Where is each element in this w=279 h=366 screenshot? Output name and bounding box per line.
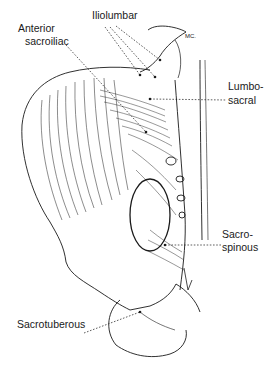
- sacrum-outline: [175, 80, 185, 290]
- label-anterior-sacroiliac-line2: sacroiliac: [25, 35, 69, 47]
- label-lumbosacral-line2: sacral: [228, 94, 256, 106]
- label-sacrotuberous: Sacrotuberous: [17, 318, 85, 330]
- lumbosacral-leader: [150, 99, 226, 100]
- iliolumbar-leader-3: [116, 26, 160, 60]
- pelvis-ligament-diagram: Iliolumbar Anterior sacroiliac MC. Lumbo…: [0, 0, 279, 366]
- label-iliolumbar: Iliolumbar: [92, 9, 138, 21]
- pelvis-illustration: [0, 0, 279, 366]
- label-lumbosacral-line1: Lumbo-: [228, 80, 264, 92]
- sacrotuberous-leader: [84, 312, 140, 333]
- obturator-foramen: [130, 179, 170, 251]
- ilium-outline: [22, 72, 176, 310]
- label-sacrospinous-line2: spinous: [222, 241, 258, 253]
- label-anterior-sacroiliac-line1: Anterior: [18, 22, 55, 34]
- label-sacrospinous-line1: Sacro-: [222, 228, 253, 240]
- anterior-sacroiliac-leader: [66, 45, 146, 132]
- label-mc: MC.: [185, 30, 196, 42]
